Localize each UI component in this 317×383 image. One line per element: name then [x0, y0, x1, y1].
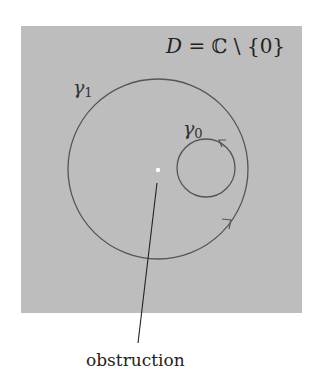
gamma-subscript: 0: [194, 126, 202, 141]
gamma-symbol: γ: [183, 117, 194, 139]
gamma-0-curve: [177, 139, 235, 197]
complex-plane-symbol: ℂ: [212, 34, 228, 58]
equals-sign: =: [182, 34, 211, 58]
domain-symbol: D: [166, 34, 182, 58]
gamma-symbol: γ: [73, 76, 84, 98]
diagram-canvas: D = ℂ \ {0} γ1 γ0 obstruction: [0, 0, 317, 383]
gamma-subscript: 1: [84, 85, 92, 100]
set-minus-zero: \ {0}: [227, 34, 285, 58]
obstruction-pointer: [138, 183, 157, 343]
gamma-1-label: γ1: [73, 76, 93, 100]
domain-label: D = ℂ \ {0}: [166, 34, 285, 58]
puncture-point: [156, 168, 160, 172]
gamma-0-label: γ0: [183, 117, 203, 141]
obstruction-label: obstruction: [86, 350, 185, 370]
